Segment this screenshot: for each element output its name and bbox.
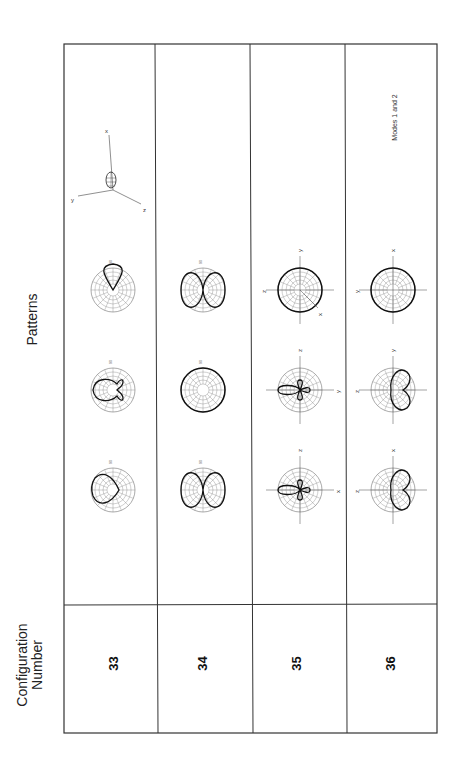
plot-34-b (181, 368, 225, 412)
svg-text:y: y (297, 249, 303, 252)
plot-34-c (181, 468, 225, 512)
svg-text:z: z (297, 349, 303, 352)
svg-text:z: z (354, 490, 360, 493)
svg-text:x: x (390, 449, 396, 452)
svg-text:90: 90 (199, 360, 203, 364)
svg-text:y: y (354, 290, 360, 293)
plot-35-b: z y (266, 349, 341, 424)
plot-36-b: y z (354, 349, 427, 424)
svg-text:z: z (261, 290, 267, 293)
svg-text:90: 90 (109, 360, 113, 364)
svg-text:90: 90 (109, 260, 113, 264)
svg-text:x: x (105, 128, 108, 134)
3d-pattern-inset: x y z (71, 128, 146, 213)
svg-text:x: x (390, 249, 396, 252)
plot-34-a (181, 268, 225, 312)
plot-33-b (91, 368, 135, 412)
plot-33-c (91, 468, 135, 512)
svg-text:y: y (390, 349, 396, 352)
svg-text:z: z (297, 449, 303, 452)
plot-36-a: x y (354, 249, 427, 324)
plot-35-c: z x (266, 449, 341, 524)
svg-text:x: x (317, 313, 323, 316)
svg-text:z: z (354, 390, 360, 393)
plot-35-a: x z y (261, 249, 334, 324)
svg-text:x: x (335, 490, 341, 493)
svg-text:z: z (143, 207, 146, 213)
svg-text:y: y (71, 197, 74, 203)
svg-text:90: 90 (199, 260, 203, 264)
svg-text:90: 90 (199, 460, 203, 464)
svg-text:y: y (335, 390, 341, 393)
svg-text:90: 90 (109, 460, 113, 464)
page: Patterns Configuration Number 33 34 35 3… (0, 0, 462, 768)
radiation-patterns: x y z (0, 0, 462, 768)
plot-33-a (91, 264, 135, 312)
plot-36-c: x z (354, 449, 427, 524)
